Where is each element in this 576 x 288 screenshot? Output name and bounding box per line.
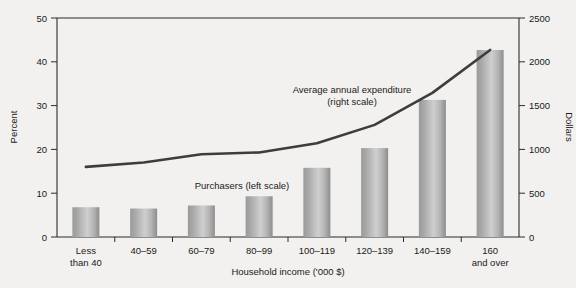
bar [303, 168, 330, 237]
y-tick-50: 50 [36, 13, 47, 24]
bar [361, 148, 388, 237]
chart-container: 0 10 20 30 40 50 Percent 0 500 1000 1500… [0, 0, 576, 288]
y-axis-right-title: Dollars [564, 112, 575, 142]
y2-tick-500: 500 [529, 188, 545, 199]
x-category-label: 80–99 [246, 245, 272, 256]
annotation-expenditure-line1: Average annual expenditure [293, 84, 412, 95]
chart-svg: 0 10 20 30 40 50 Percent 0 500 1000 1500… [0, 0, 576, 288]
bar [72, 207, 99, 237]
x-category-label: 40–59 [130, 245, 156, 256]
x-category-label: 160 [482, 245, 498, 256]
annotation-purchasers: Purchasers (left scale) [195, 180, 290, 191]
y-axis-left-title: Percent [8, 110, 19, 143]
x-category-label: Less [76, 245, 96, 256]
x-category-label-line2: than 40 [70, 257, 102, 268]
x-category-label-line2: and over [472, 257, 509, 268]
bar [188, 205, 215, 237]
x-axis-title: Household income ('000 $) [231, 266, 344, 277]
y-tick-10: 10 [36, 188, 47, 199]
x-category-label: 120–139 [356, 245, 393, 256]
y-tick-40: 40 [36, 56, 47, 67]
annotation-expenditure-line2: (right scale) [327, 96, 377, 107]
y-tick-30: 30 [36, 100, 47, 111]
y2-tick-1500: 1500 [529, 100, 550, 111]
y2-tick-2000: 2000 [529, 56, 550, 67]
bar [419, 100, 446, 237]
y-tick-20: 20 [36, 144, 47, 155]
y2-tick-0: 0 [529, 232, 534, 243]
y-tick-0: 0 [42, 232, 47, 243]
y2-tick-1000: 1000 [529, 144, 550, 155]
bar [130, 209, 157, 237]
bar [246, 196, 273, 237]
x-category-label: 100–119 [299, 245, 335, 256]
bar [477, 50, 504, 237]
y2-tick-2500: 2500 [529, 13, 550, 24]
x-category-label: 140–159 [414, 245, 451, 256]
x-category-label: 60–79 [188, 245, 214, 256]
